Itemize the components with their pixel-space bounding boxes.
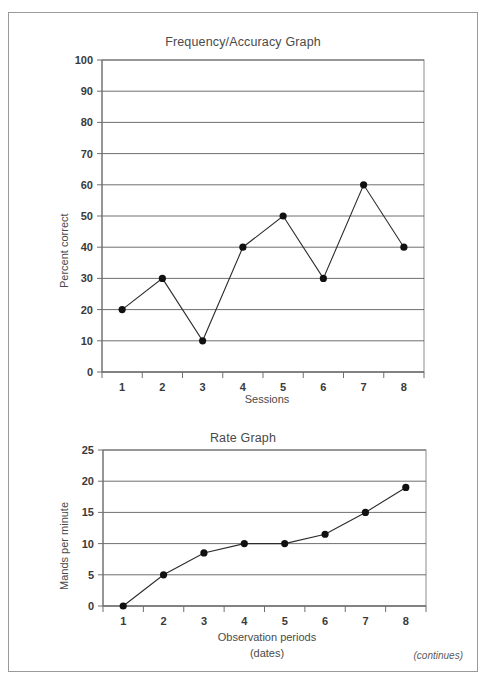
chart-2-data-point: [362, 509, 369, 516]
chart-2-x-tick-label: 3: [201, 615, 207, 627]
chart-2-data-point: [281, 540, 288, 547]
chart-2-plot: 051015202512345678: [9, 13, 479, 673]
chart-2-data-point: [200, 549, 207, 556]
chart-2-x-tick-label: 5: [282, 615, 288, 627]
chart-2-y-tick-label: 15: [82, 506, 94, 518]
chart-2-data-point: [321, 531, 328, 538]
chart-2-y-tick-label: 10: [82, 538, 94, 550]
chart-2-x-tick-label: 4: [241, 615, 248, 627]
continues-note: (continues): [414, 650, 463, 661]
chart-2-x-tick-label: 2: [161, 615, 167, 627]
rate-graph-figure: Rate Graph Mands per minute Observation …: [9, 13, 477, 671]
chart-2-data-point: [120, 602, 127, 609]
chart-2-x-tick-label: 7: [362, 615, 368, 627]
chart-2-y-tick-label: 20: [82, 475, 94, 487]
chart-2-y-tick-label: 0: [88, 600, 94, 612]
chart-2-y-tick-label: 25: [82, 444, 94, 456]
chart-2-data-point: [241, 540, 248, 547]
chart-2-x-tick-label: 8: [403, 615, 409, 627]
chart-2-y-tick-label: 5: [88, 569, 94, 581]
chart-2-data-point: [402, 484, 409, 491]
chart-2-x-tick-label: 1: [120, 615, 126, 627]
chart-2-plot-frame: [103, 450, 426, 606]
figure-page-frame: Frequency/Accuracy Graph Percent correct…: [8, 12, 478, 672]
chart-2-series-line: [123, 487, 406, 606]
chart-2-x-tick-label: 6: [322, 615, 328, 627]
chart-2-data-point: [160, 571, 167, 578]
